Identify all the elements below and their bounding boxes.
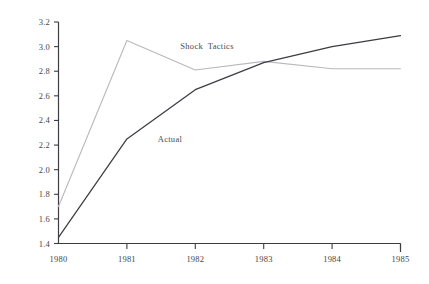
y-axis-tick-label: 1.4 (20, 239, 50, 248)
y-axis-ticks (54, 22, 59, 244)
series-line-shock-tactics (59, 40, 401, 206)
y-axis-tick-label: 2.0 (20, 165, 50, 174)
y-axis-tick-label: 2.8 (20, 67, 50, 76)
x-axis-tick-label: 1980 (50, 255, 68, 264)
y-axis-tick-label: 3.0 (20, 42, 50, 51)
y-axis-tick-label: 3.2 (20, 18, 50, 27)
x-axis-tick-label: 1983 (255, 255, 273, 264)
x-axis-tick-label: 1984 (323, 255, 341, 264)
x-axis-tick-label: 1982 (186, 255, 204, 264)
axis-lines (58, 22, 401, 252)
x-axis-tick-label: 1985 (392, 255, 410, 264)
line-chart: 1.41.61.82.02.22.42.62.83.03.2 198019811… (0, 0, 429, 284)
y-axis-tick-label: 1.6 (20, 215, 50, 224)
series-label-shock-tactics: Shock Tactics (180, 42, 234, 51)
y-axis-tick-label: 1.8 (20, 190, 50, 199)
series-label-actual: Actual (158, 135, 182, 144)
x-axis-ticks (127, 244, 401, 250)
y-axis-tick-label: 2.6 (20, 92, 50, 101)
y-axis-tick-label: 2.4 (20, 116, 50, 125)
y-axis-tick-label: 2.2 (20, 141, 50, 150)
x-axis-tick-label: 1981 (118, 255, 136, 264)
